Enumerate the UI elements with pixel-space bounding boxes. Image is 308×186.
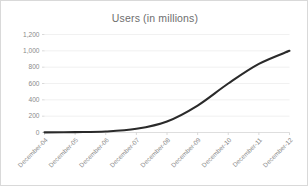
- x-axis-tick-label: December-09: [170, 136, 203, 169]
- x-axis-tick-labels: December-04December-05December-06Decembe…: [16, 133, 294, 169]
- gridlines: [45, 35, 290, 133]
- y-axis-tick-label: 200: [28, 112, 39, 119]
- x-axis-tick-label: December-11: [231, 136, 263, 168]
- x-axis-tick-label: December-10: [200, 136, 233, 169]
- y-axis-tick-label: 600: [28, 80, 39, 87]
- x-axis-tick-label: December-12: [261, 136, 294, 169]
- data-series: [45, 51, 290, 133]
- y-axis-tick-label: 1,000: [23, 47, 40, 54]
- series-line: [45, 51, 290, 133]
- x-axis-tick-label: December-08: [139, 136, 172, 169]
- y-axis-tick-label: 400: [28, 96, 39, 103]
- x-axis-tick-label: December-04: [16, 136, 49, 169]
- x-axis-tick-label: December-06: [78, 136, 111, 169]
- y-axis-tick-label: 800: [28, 63, 39, 70]
- y-axis-tick-label: 0: [36, 129, 40, 136]
- x-axis-tick-label: December-05: [47, 136, 80, 169]
- x-axis-tick-label: December-07: [108, 136, 141, 169]
- y-axis-tick-label: 1,200: [23, 31, 40, 38]
- chart-container: Users (in millions) 02004006008001,0001,…: [0, 0, 308, 186]
- line-chart-plot: 02004006008001,0001,200 December-04Decem…: [1, 1, 308, 186]
- y-axis-tick-labels: 02004006008001,0001,200: [23, 31, 45, 136]
